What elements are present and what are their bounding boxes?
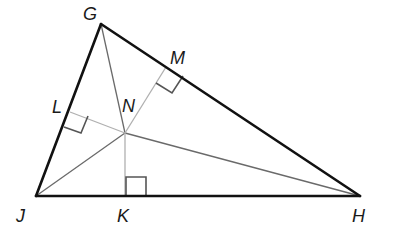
bisector-JN [36, 133, 125, 196]
right-angle-mark-L [64, 116, 88, 133]
perpendicular-NL [70, 112, 125, 133]
right-angle-mark-M [156, 76, 183, 93]
label-L: L [52, 97, 62, 117]
label-N: N [122, 96, 136, 116]
label-M: M [170, 48, 185, 68]
label-H: H [352, 206, 366, 226]
triangle-diagram: G J H L M K N [0, 0, 395, 239]
side-GJ [36, 24, 101, 196]
bisector-GN [101, 24, 125, 133]
bisector-HN [125, 133, 360, 196]
right-angle-mark-K [126, 177, 146, 196]
label-G: G [83, 4, 97, 24]
label-J: J [15, 206, 26, 226]
label-K: K [117, 206, 130, 226]
